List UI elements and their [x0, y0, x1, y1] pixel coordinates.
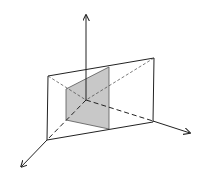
3d-axes-diagram [0, 0, 203, 184]
shaded-plane [66, 67, 109, 129]
front-axis [21, 140, 47, 167]
right-axis [153, 121, 190, 133]
